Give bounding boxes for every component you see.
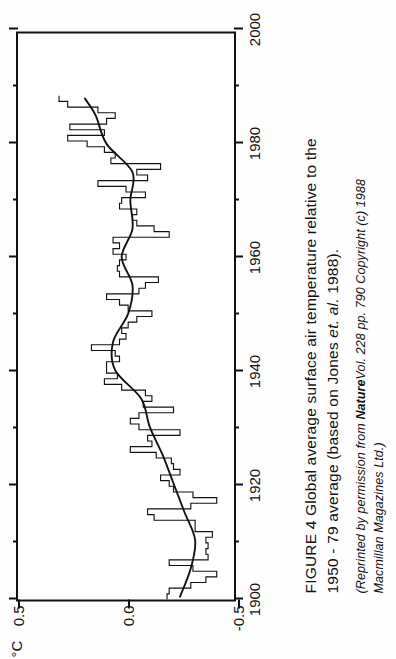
- y-axis-label-0.0: 0.0: [120, 605, 137, 626]
- x-axis-tick-1940: [9, 369, 18, 371]
- x-axis-tick-2000: [234, 27, 243, 29]
- x-axis-tick-1960: [9, 255, 18, 257]
- x-axis-tick-1910: [234, 540, 239, 542]
- x-axis-tick-1900: [9, 597, 18, 599]
- x-axis-tick-1930: [13, 426, 18, 428]
- x-axis-label-1900: 1900: [246, 582, 263, 615]
- annual-step-series: [59, 95, 217, 599]
- figure-rotated-container: °C -0.50.00.5 190019201940196019802000 F…: [0, 0, 396, 659]
- x-axis-tick-1970: [13, 198, 18, 200]
- x-axis-tick-1970: [234, 198, 239, 200]
- x-axis-label-1940: 1940: [246, 354, 263, 387]
- figure-caption: FIGURE 4 Global average surface air temp…: [300, 33, 388, 593]
- scanned-page: °C -0.50.00.5 190019201940196019802000 F…: [0, 0, 396, 659]
- plot-frame: -0.50.00.5 190019201940196019802000: [16, 31, 236, 601]
- caption-etal: et. al.: [324, 298, 341, 337]
- x-axis-tick-1900: [234, 597, 243, 599]
- x-axis-tick-1980: [234, 141, 243, 143]
- y-axis-unit-label: °C: [8, 640, 25, 657]
- x-axis-tick-1910: [13, 540, 18, 542]
- x-axis-tick-1990: [13, 84, 18, 86]
- x-axis-label-1980: 1980: [246, 126, 263, 159]
- source-pre: (Reprinted by permission from: [354, 423, 368, 593]
- smoothed-curve-series: [85, 98, 195, 596]
- x-axis-label-2000: 2000: [246, 12, 263, 45]
- source-post: Vol. 228 pp. 790 Copyright (c) 1988: [354, 179, 368, 379]
- caption-line-2: 1950 - 79 average (based on Jones et. al…: [322, 33, 344, 593]
- x-axis-label-1960: 1960: [246, 240, 263, 273]
- caption-source-line-1: (Reprinted by permission from NatureVol.…: [352, 33, 370, 593]
- x-axis-tick-1990: [234, 84, 239, 86]
- caption-source-line-2: Macmillan Magazines Ltd.): [370, 33, 388, 593]
- caption-line-2-text: 1950 - 79 average (based on Jones: [324, 342, 341, 593]
- y-axis-label-0.5: 0.5: [10, 605, 27, 626]
- x-axis-label-1920: 1920: [246, 468, 263, 501]
- x-axis-tick-1920: [234, 483, 243, 485]
- chart-block: °C -0.50.00.5 190019201940196019802000: [6, 59, 296, 659]
- y-axis-label--0.5: -0.5: [230, 605, 247, 631]
- annual-step-path: [59, 95, 217, 599]
- x-axis-tick-1940: [234, 369, 243, 371]
- x-axis-tick-1930: [234, 426, 239, 428]
- source-journal: Nature: [354, 379, 368, 419]
- x-axis-tick-1960: [234, 255, 243, 257]
- x-axis-tick-1920: [9, 483, 18, 485]
- x-axis-tick-1980: [9, 141, 18, 143]
- x-axis-tick-1950: [234, 312, 239, 314]
- x-axis-tick-2000: [9, 27, 18, 29]
- smoothed-curve-path: [85, 98, 195, 596]
- caption-line-2-end: 1988).: [324, 248, 341, 293]
- x-axis-tick-1950: [13, 312, 18, 314]
- chart-svg: [18, 33, 234, 599]
- caption-line-1: FIGURE 4 Global average surface air temp…: [300, 33, 322, 593]
